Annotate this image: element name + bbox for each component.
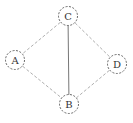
node-a: A (6, 51, 25, 70)
node-c: C (59, 7, 78, 26)
edge-c-d (68, 16, 117, 64)
edges (15, 16, 117, 104)
nodes: C A D B (6, 7, 127, 114)
node-d-label: D (113, 59, 121, 70)
node-b: B (60, 95, 79, 114)
node-d: D (108, 55, 127, 74)
edge-c-b (68, 16, 69, 104)
node-a-label: A (10, 55, 19, 66)
edge-c-a (15, 16, 68, 60)
node-b-label: B (65, 99, 72, 110)
graph-diagram: C A D B (0, 0, 133, 123)
edge-a-b (15, 60, 69, 104)
node-c-label: C (64, 11, 72, 22)
